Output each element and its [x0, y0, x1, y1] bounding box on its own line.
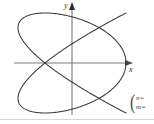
ratio-annotation: ( n= m=: [130, 92, 146, 112]
ratio-n-label: n=: [136, 94, 146, 102]
y-axis-arrowhead-icon: [69, 2, 75, 10]
x-axis-label: x: [129, 66, 133, 74]
ratio-stack: n= m=: [136, 94, 146, 111]
open-paren-glyph: (: [130, 92, 135, 112]
ratio-m-label: m=: [136, 103, 146, 111]
lissajous-figure-panel: y x ( n= m=: [0, 0, 154, 124]
y-axis-label: y: [64, 2, 68, 10]
x-axis: [14, 60, 133, 66]
bottom-divider: [0, 119, 154, 120]
y-axis: [69, 2, 75, 115]
